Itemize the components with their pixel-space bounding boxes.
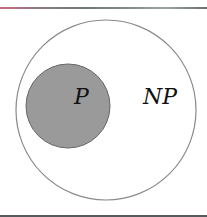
diagram-canvas: P NP [0,0,207,217]
p-set-circle [26,64,110,148]
p-label: P [73,84,90,109]
bottom-border [0,215,207,217]
venn-diagram: P NP [0,0,207,217]
np-label: NP [142,84,178,109]
